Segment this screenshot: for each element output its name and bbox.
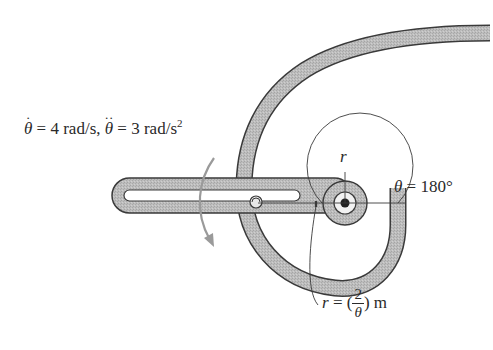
equation-fraction: 2θ — [352, 287, 364, 320]
theta-dot-value: = 4 rad/s, — [37, 119, 101, 138]
equation-lhs: r — [322, 293, 329, 312]
angular-rates-label: θ = 4 rad/s, θ = 3 rad/s2 — [24, 118, 183, 137]
fraction-denominator: θ — [352, 304, 364, 321]
pin-follower — [250, 196, 262, 208]
path-equation: r = (2θ) m — [322, 287, 387, 320]
equation-eq: = ( — [333, 293, 353, 312]
theta-ddot-value: = 3 rad/s — [117, 119, 177, 138]
angle-value: = 180° — [407, 177, 453, 196]
theta-ddot-exponent: 2 — [177, 117, 183, 129]
fraction-numerator: 2 — [352, 287, 364, 304]
angle-symbol: θ — [394, 177, 402, 196]
theta-ddot-symbol: θ — [105, 120, 113, 137]
spiral-guide — [244, 33, 490, 288]
equation-rhs: ) m — [364, 293, 387, 312]
mechanism-diagram — [0, 0, 493, 350]
radial-axis-label: r — [340, 148, 347, 165]
angle-label: θ = 180° — [394, 178, 453, 195]
theta-dot-symbol: θ — [24, 120, 32, 137]
